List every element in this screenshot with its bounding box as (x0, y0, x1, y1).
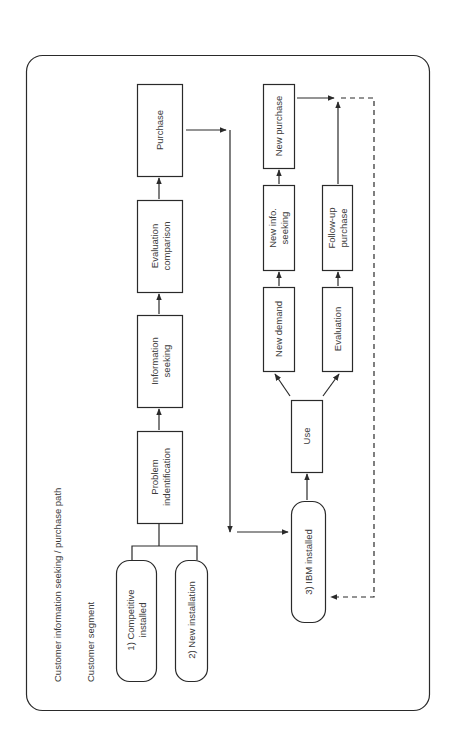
box-evaluation-comparison: Evaluation comparison (138, 201, 183, 293)
segment-new-installation: 2) New installation (176, 561, 208, 682)
box-purchase: Purchase (138, 85, 183, 177)
arrow-use-to-new-demand (275, 374, 290, 396)
arrow-use-to-evaluation (323, 374, 339, 396)
svg-text:1) Competitive: 1) Competitive (125, 589, 136, 650)
svg-text:purchase: purchase (338, 208, 349, 247)
svg-text:New demand: New demand (273, 301, 284, 357)
svg-text:3) IBM installed: 3) IBM installed (303, 529, 314, 594)
svg-text:2) New installation: 2) New installation (186, 581, 197, 659)
segment-competitive-installed: 1) Competitive installed (117, 561, 157, 682)
box-information-seeking: Information seeking (138, 316, 183, 408)
segment-label: Customer segment (85, 601, 96, 682)
box-new-demand: New demand (264, 288, 295, 372)
box-new-purchase: New purchase (264, 85, 295, 169)
svg-text:Problem: Problem (149, 459, 160, 494)
svg-text:Follow-up: Follow-up (326, 207, 337, 248)
svg-text:seeking: seeking (161, 345, 172, 378)
svg-text:indentification: indentification (161, 448, 172, 506)
diagram: Customer information seeking / purchase … (0, 0, 453, 749)
svg-text:Use: Use (301, 428, 312, 445)
svg-text:Evaluation: Evaluation (149, 224, 160, 268)
svg-text:New info.: New info. (267, 208, 278, 248)
svg-text:Information: Information (149, 337, 160, 385)
box-follow-up-purchase: Follow-up purchase (323, 186, 353, 271)
svg-text:comparison: comparison (161, 221, 172, 270)
box-evaluation: Evaluation (323, 288, 353, 372)
box-new-info-seeking: New info. seeking (264, 186, 295, 271)
segment-bracket (132, 523, 197, 560)
svg-text:installed: installed (137, 603, 148, 638)
svg-text:Evaluation: Evaluation (332, 307, 343, 351)
svg-text:seeking: seeking (279, 212, 290, 245)
diagram-title: Customer information seeking / purchase … (52, 488, 63, 682)
box-use: Use (292, 401, 323, 473)
svg-text:Purchase: Purchase (154, 110, 165, 150)
segment-ibm-installed: 3) IBM installed (292, 502, 326, 623)
svg-text:New purchase: New purchase (273, 96, 284, 157)
box-problem-identification: Problem indentification (138, 432, 183, 524)
